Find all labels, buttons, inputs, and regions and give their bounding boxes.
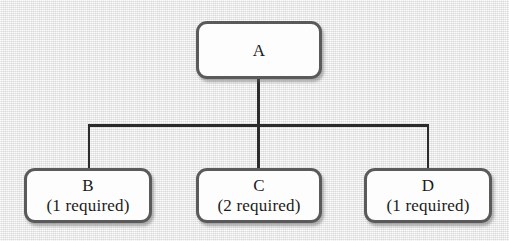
node-d-label: D	[422, 176, 435, 195]
node-a-label: A	[253, 41, 266, 60]
node-a: A	[196, 21, 322, 79]
node-b-label: B	[82, 176, 94, 195]
node-c: C (2 required)	[196, 168, 322, 223]
diagram-canvas: A B (1 required) C (2 required) D (1 req…	[0, 0, 509, 241]
node-d-requirement: (1 required)	[386, 196, 469, 215]
node-c-requirement: (2 required)	[217, 196, 300, 215]
node-c-label: C	[253, 176, 265, 195]
node-d: D (1 required)	[364, 168, 492, 223]
node-b-requirement: (1 required)	[46, 196, 129, 215]
node-b: B (1 required)	[24, 168, 152, 223]
